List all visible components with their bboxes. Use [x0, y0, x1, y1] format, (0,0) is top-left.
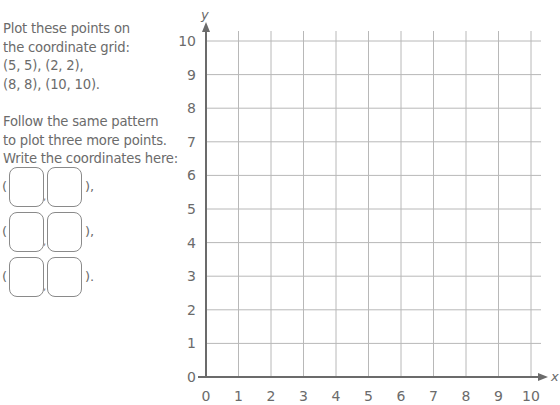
- x-tick-label: 3: [299, 388, 308, 404]
- x-tick-label: 9: [494, 388, 503, 404]
- y-axis-label: y: [200, 7, 209, 22]
- y-tick-label: 1: [187, 335, 196, 351]
- x-tick-label: 4: [332, 388, 341, 404]
- x-axis-label: x: [550, 369, 559, 384]
- y-tick-label: 3: [187, 268, 196, 284]
- axes: x y: [198, 7, 559, 384]
- x-tick-label: 8: [462, 388, 471, 404]
- x-tick-label: 5: [364, 388, 373, 404]
- x-tick-label: 1: [234, 388, 243, 404]
- grid-lines: [206, 31, 541, 377]
- x-tick-label: 7: [429, 388, 438, 404]
- y-tick-labels: 012345678910: [178, 33, 196, 385]
- x-tick-labels: 012345678910: [202, 388, 540, 404]
- y-tick-label: 9: [187, 67, 196, 83]
- y-axis-arrow-icon: [202, 22, 210, 32]
- x-axis-arrow-icon: [538, 373, 548, 381]
- y-tick-label: 5: [187, 201, 196, 217]
- y-tick-label: 0: [187, 369, 196, 385]
- x-tick-label: 10: [522, 388, 540, 404]
- coordinate-grid[interactable]: x y 012345678910 012345678910: [0, 0, 560, 405]
- x-tick-label: 6: [397, 388, 406, 404]
- y-tick-label: 8: [187, 100, 196, 116]
- y-tick-label: 10: [178, 33, 196, 49]
- y-tick-label: 7: [187, 134, 196, 150]
- x-tick-label: 2: [267, 388, 276, 404]
- y-tick-label: 4: [187, 235, 196, 251]
- x-tick-label: 0: [202, 388, 211, 404]
- y-tick-label: 2: [187, 302, 196, 318]
- y-tick-label: 6: [187, 167, 196, 183]
